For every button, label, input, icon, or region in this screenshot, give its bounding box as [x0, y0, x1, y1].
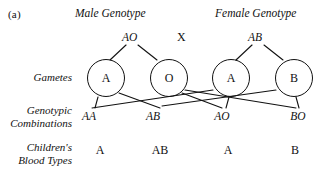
- male-genotype-header: Male Genotype: [75, 7, 146, 19]
- line-female-genotype-to-gamete-B: [264, 45, 283, 60]
- childrens-blood-type: A: [85, 143, 115, 158]
- line-gamete-B-to-combo-BO: [296, 97, 299, 108]
- line-gamete-A1-to-combo-AA: [95, 97, 98, 108]
- cross-symbol: X: [177, 30, 186, 45]
- female-genotype-header: Female Genotype: [215, 7, 296, 19]
- row-label-genotypic-combinations: Genotypic Combinations: [0, 104, 72, 130]
- line-gamete-A2-to-combo-AO: [226, 97, 229, 108]
- genotypic-combination: AA: [72, 110, 106, 122]
- genotypic-combination: AB: [136, 110, 170, 122]
- genotypic-combination: AO: [205, 110, 239, 122]
- line-gamete-O-to-combo-AO: [182, 93, 222, 108]
- childrens-blood-type: AB: [145, 143, 175, 158]
- gamete-allele-label: O: [165, 71, 174, 86]
- gamete-circle-male-A: A: [87, 59, 125, 97]
- gamete-circle-female-B: B: [275, 59, 313, 97]
- gamete-allele-label: A: [102, 71, 111, 86]
- male-parent-genotype: AO: [122, 31, 137, 43]
- line-male-genotype-to-gamete-A: [110, 45, 126, 60]
- gamete-allele-label: A: [227, 71, 236, 86]
- line-male-genotype-to-gamete-O: [138, 45, 157, 60]
- genotypic-combination: BO: [281, 110, 315, 122]
- row-label-bloodtypes-line1: Children's: [0, 141, 72, 154]
- blood-type-inheritance-diagram: (a) Male Genotype Female Genotype X AO A…: [0, 0, 323, 178]
- childrens-blood-type: A: [213, 143, 243, 158]
- row-label-bloodtypes-line2: Blood Types: [0, 154, 72, 167]
- row-label-gametes: Gametes: [0, 71, 72, 84]
- row-label-genotypic-line1: Genotypic: [0, 104, 72, 117]
- row-label-childrens-blood-types: Children's Blood Types: [0, 141, 72, 167]
- line-female-genotype-to-gamete-A: [236, 45, 252, 60]
- gamete-allele-label: B: [290, 71, 298, 86]
- gamete-circle-male-O: O: [150, 59, 188, 97]
- childrens-blood-type: B: [280, 143, 310, 158]
- row-label-genotypic-line2: Combinations: [0, 117, 72, 130]
- gamete-circle-female-A: A: [212, 59, 250, 97]
- figure-label: (a): [8, 8, 21, 20]
- line-gamete-A1-to-combo-AB: [119, 93, 160, 108]
- female-parent-genotype: AB: [248, 31, 262, 43]
